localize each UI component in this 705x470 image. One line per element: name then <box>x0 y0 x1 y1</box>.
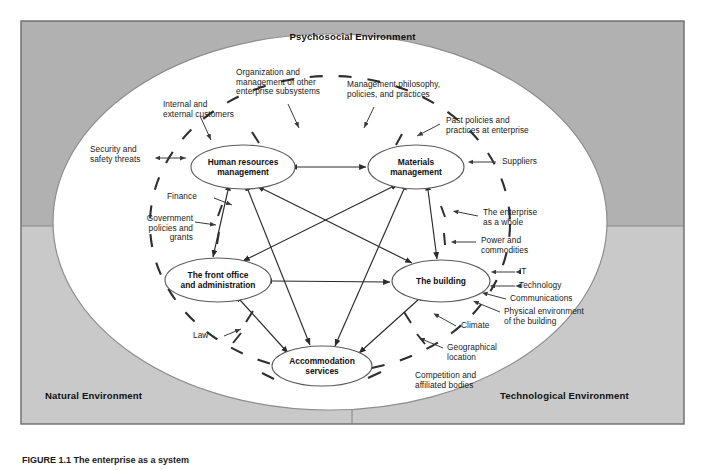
factor-suppliers: Suppliers <box>502 157 562 167</box>
factor-it: IT <box>519 267 559 277</box>
factor-government-policies: Government policies and grants <box>127 214 193 243</box>
env-label-technological: Technological Environment <box>500 390 629 401</box>
factor-power-commodities: Power and commodities <box>481 236 553 255</box>
factor-physical-environment: Physical environment of the building <box>504 307 606 326</box>
node-label-hr: Human resources management <box>191 157 295 177</box>
node-label-materials: Materials management <box>368 157 464 177</box>
factor-enterprise-as-a-whole: The enterprise as a whole <box>483 208 565 227</box>
factor-management-philosophy: Management philosophy, policies, and pra… <box>347 80 459 99</box>
node-label-accommodation: Accommodation services <box>272 356 372 376</box>
node-label-frontoffice: The front office and administration <box>165 270 271 290</box>
factor-finance: Finance <box>167 192 213 202</box>
factor-law: Law <box>193 331 225 341</box>
factor-internal-external-customers: Internal and external customers <box>163 100 247 119</box>
factor-communications: Communications <box>510 294 598 304</box>
enterprise-system-figure: Psychosocial Environment Natural Environ… <box>0 0 705 470</box>
node-label-building: The building <box>392 276 490 286</box>
factor-past-policies: Past policies and practices at enterpris… <box>446 116 540 135</box>
env-label-natural: Natural Environment <box>45 390 142 401</box>
factor-competition-affiliated: Competition and affiliated bodies <box>415 371 501 390</box>
factor-geographical-location: Geographical location <box>447 343 519 362</box>
figure-caption: FIGURE 1.1 The enterprise as a system <box>22 455 189 465</box>
factor-climate: Climate <box>461 321 507 331</box>
env-label-psychosocial: Psychosocial Environment <box>0 31 705 42</box>
factor-technology: Technology <box>519 281 587 291</box>
factor-organization-management: Organization and management of other ent… <box>236 68 340 97</box>
factor-security-safety-threats: Security and safety threats <box>90 145 158 164</box>
